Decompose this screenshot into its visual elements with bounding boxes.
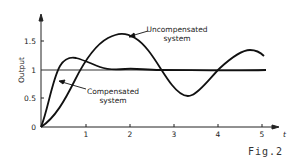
x-tick-1: 1 — [84, 130, 89, 139]
figure-caption: Fig.2 — [248, 146, 283, 157]
step-response-chart: 0 0.5 1 1.5 1 2 3 4 5 t Output Uncompens… — [0, 0, 302, 162]
uncompensated-curve — [41, 34, 264, 127]
compensated-label-line2: system — [99, 96, 126, 105]
x-axis-arrow-icon — [272, 125, 279, 129]
y-axis-label: Output — [17, 57, 26, 83]
x-tick-4: 4 — [216, 130, 221, 139]
compensated-label-line1: Compensated — [87, 87, 139, 96]
x-axis-label: t — [283, 130, 287, 139]
y-axis-arrow-icon — [39, 14, 43, 21]
uncompensated-label-line1: Uncompensated — [146, 25, 207, 34]
x-tick-5: 5 — [260, 130, 265, 139]
uncompensated-label-line2: system — [163, 34, 190, 43]
compensated-curve — [41, 58, 266, 127]
origin-label: 0 — [31, 123, 36, 132]
x-tick-2: 2 — [128, 130, 133, 139]
annotation-arrows — [59, 31, 148, 89]
y-tick-1: 1 — [31, 66, 36, 75]
y-tick-1.5: 1.5 — [24, 37, 36, 46]
y-tick-0.5: 0.5 — [24, 94, 36, 103]
x-tick-3: 3 — [172, 130, 177, 139]
